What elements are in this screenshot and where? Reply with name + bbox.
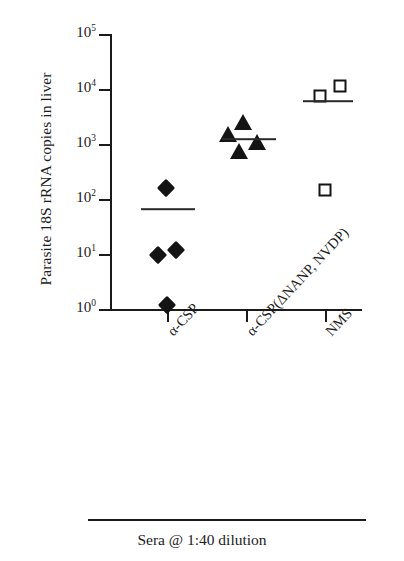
y-tick-1e3 — [99, 144, 111, 146]
y-tick-label-exponent: 2 — [91, 188, 96, 198]
data-point-square — [319, 184, 332, 197]
y-tick-label-base: 10 — [76, 24, 91, 40]
y-tick-label-1e0: 100 — [44, 300, 96, 315]
median-line-group-3 — [303, 100, 353, 102]
median-line-group-2 — [222, 138, 276, 140]
y-tick-label-exponent: 4 — [91, 78, 96, 88]
data-point-diamond — [157, 179, 175, 197]
data-point-triangle — [248, 134, 266, 150]
y-tick-label-1e5: 105 — [44, 25, 96, 40]
figure-panel: Parasite 18S rRNA copies in liver 105 10… — [0, 0, 404, 561]
y-tick-1e0 — [99, 309, 111, 311]
y-tick-label-exponent: 0 — [91, 298, 96, 308]
y-tick-label-base: 10 — [76, 189, 91, 205]
y-tick-label-exponent: 5 — [91, 23, 96, 33]
data-point-diamond — [149, 246, 167, 264]
y-tick-1e1 — [99, 254, 111, 256]
x-tick-group-3 — [325, 311, 327, 322]
y-axis-line — [110, 34, 112, 311]
y-tick-label-1e1: 101 — [44, 245, 96, 260]
y-axis-title: Parasite 18S rRNA copies in liver — [37, 29, 55, 329]
y-tick-1e2 — [99, 199, 111, 201]
y-tick-label-1e3: 103 — [44, 135, 96, 150]
y-tick-label-1e2: 102 — [44, 190, 96, 205]
data-point-triangle — [230, 143, 248, 159]
y-tick-1e5 — [99, 34, 111, 36]
y-tick-label-base: 10 — [76, 244, 91, 260]
footer-rule — [88, 519, 366, 521]
y-tick-label-base: 10 — [76, 134, 91, 150]
median-line-group-1 — [141, 208, 195, 210]
y-tick-1e4 — [99, 89, 111, 91]
y-tick-label-1e4: 104 — [44, 80, 96, 95]
x-tick-group-2 — [246, 311, 248, 322]
y-tick-label-base: 10 — [76, 79, 91, 95]
y-tick-label-base: 10 — [76, 299, 91, 315]
x-axis-caption: Sera @ 1:40 dilution — [0, 531, 404, 549]
y-tick-label-exponent: 3 — [91, 133, 96, 143]
data-point-diamond — [158, 296, 176, 314]
y-tick-label-exponent: 1 — [91, 243, 96, 253]
data-point-diamond — [167, 241, 185, 259]
data-point-square — [334, 80, 347, 93]
